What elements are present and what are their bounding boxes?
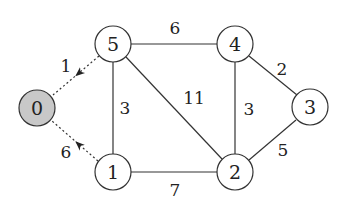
edge-2-3 (249, 120, 296, 160)
svg-text:4: 4 (229, 33, 241, 55)
edge-5-2 (126, 57, 222, 159)
weight-label-5-2: 11 (183, 88, 205, 108)
weight-label-4-3: 2 (277, 59, 288, 79)
weight-label-4-2: 3 (244, 99, 255, 119)
edge-1-0 (52, 121, 98, 161)
svg-text:1: 1 (107, 161, 119, 183)
svg-text:2: 2 (229, 161, 241, 183)
weight-label-5-0: 1 (61, 56, 72, 76)
edge-4-3 (249, 56, 297, 95)
weight-label-1-2: 7 (170, 180, 181, 200)
svg-text:3: 3 (304, 96, 316, 118)
graph-node-0: 0 (19, 90, 55, 126)
weight-label-2-3: 5 (278, 140, 289, 160)
graph-node-2: 2 (217, 154, 253, 190)
weight-label-5-1: 3 (120, 98, 131, 118)
weight-label-5-4: 6 (170, 18, 181, 38)
weight-label-1-0: 6 (61, 142, 72, 162)
graph-node-1: 1 (95, 154, 131, 190)
svg-text:5: 5 (107, 33, 119, 55)
graph-diagram: 6 3 11 3 2 5 7 1 6 0 1 2 3 4 5 (0, 0, 350, 215)
graph-node-4: 4 (217, 26, 253, 62)
graph-node-5: 5 (95, 26, 131, 62)
svg-text:0: 0 (31, 97, 43, 119)
graph-node-3: 3 (292, 89, 328, 125)
